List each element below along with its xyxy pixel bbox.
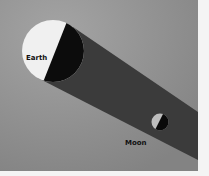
moon-label: Moon <box>125 139 147 147</box>
earth-label: Earth <box>26 54 47 62</box>
eclipse-diagram: Earth Moon <box>0 0 198 171</box>
